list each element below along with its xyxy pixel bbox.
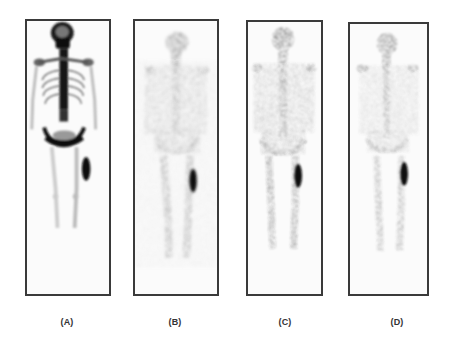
panel-label-d: (D) — [390, 317, 403, 327]
panel-label-b: (B) — [168, 317, 181, 327]
bone-scan-panel-b — [133, 19, 219, 296]
bone-scan-panel-d — [348, 22, 429, 296]
skeleton-scan-image-d — [350, 24, 427, 294]
panel-label-a: (A) — [60, 317, 73, 327]
skeleton-scan-image-b — [135, 21, 217, 294]
skeleton-scan-image-c — [248, 22, 321, 294]
panel-label-c: (C) — [278, 317, 291, 327]
bone-scan-panel-c — [246, 20, 323, 296]
skeleton-scan-image-a — [27, 21, 109, 294]
bone-scan-panel-a — [25, 19, 111, 296]
